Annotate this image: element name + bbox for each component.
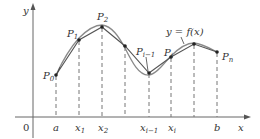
point-Pim1 [147,71,151,75]
label-Pi: Pi [163,47,173,60]
Pim1-pointer [146,57,148,71]
tick-xim1: xi−1 [140,122,158,135]
label-P1: P1 [66,28,78,41]
point-P3 [123,44,127,48]
tick-x1: x1 [75,122,85,135]
label-P0: P0 [42,70,55,83]
curve-label: y = f(x) [165,26,204,37]
point-Pn [215,50,219,54]
tick-x2: x2 [98,122,109,135]
x-axis-arrow-icon [244,115,251,120]
label-Pn: Pn [221,51,234,64]
tick-xi: xi [168,122,176,135]
y-axis-label: y [22,5,29,16]
x-axis-label: x [238,122,244,133]
point-P2 [100,25,104,29]
label-Pim1: Pi−1 [135,46,155,59]
label-P2: P2 [96,11,109,24]
axes [15,3,251,138]
y-axis-arrow-icon [31,3,36,10]
point-peak [192,42,196,46]
tick-b: b [214,122,220,133]
tick-a: a [53,122,59,133]
origin-label: 0 [23,122,29,133]
diagram-svg: y x 0 P0 P1 P2 Pi−1 Pi Pn y = f(x) a x1 … [0,0,260,139]
arc-length-diagram: y x 0 P0 P1 P2 Pi−1 Pi Pn y = f(x) a x1 … [0,0,260,139]
curve-label-pointer [181,37,184,44]
